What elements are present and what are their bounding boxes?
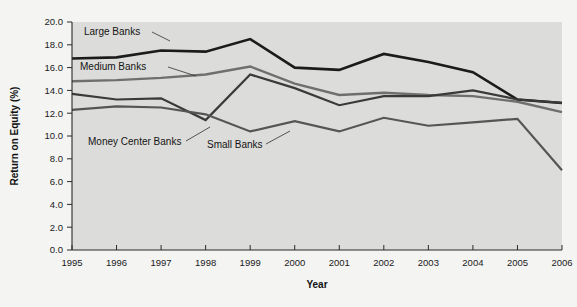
x-tick-label: 1995 [61, 257, 82, 268]
series-label-large-banks: Large Banks [84, 26, 140, 37]
x-tick-label: 2006 [551, 257, 572, 268]
y-tick-label: 18.0 [45, 39, 64, 50]
y-tick-label: 6.0 [50, 176, 63, 187]
y-tick-label: 2.0 [50, 222, 63, 233]
y-tick-label: 16.0 [45, 62, 64, 73]
chart-figure: 20.018.016.014.012.010.08.06.04.02.00.0 … [0, 0, 577, 307]
x-tick-label: 2001 [329, 257, 350, 268]
y-axis-title: Return on Equity (%) [9, 87, 20, 186]
series-label-small-banks: Small Banks [207, 139, 263, 150]
x-tick-label: 2005 [507, 257, 528, 268]
y-axis-tick-labels-group: 20.018.016.014.012.010.08.06.04.02.00.0 [45, 16, 73, 255]
series-label-medium-banks: Medium Banks [80, 61, 146, 72]
x-tick-label: 1999 [240, 257, 261, 268]
y-tick-label: 12.0 [45, 108, 64, 119]
series-label-money-center-banks: Money Center Banks [88, 136, 181, 147]
y-tick-label: 10.0 [45, 130, 64, 141]
y-tick-label: 14.0 [45, 85, 64, 96]
x-tick-label: 2000 [284, 257, 305, 268]
x-tick-label: 1998 [195, 257, 216, 268]
x-tick-label: 2002 [373, 257, 394, 268]
x-tick-label: 1996 [106, 257, 127, 268]
x-axis-title: Year [306, 279, 327, 290]
y-tick-label: 4.0 [50, 199, 63, 210]
x-tick-label: 2004 [462, 257, 483, 268]
x-tick-label: 2003 [418, 257, 439, 268]
return-on-equity-line-chart: 20.018.016.014.012.010.08.06.04.02.00.0 … [0, 0, 577, 307]
y-tick-label: 8.0 [50, 153, 63, 164]
y-tick-label: 20.0 [45, 16, 64, 27]
x-tick-label: 1997 [151, 257, 172, 268]
y-tick-label: 0.0 [50, 244, 63, 255]
